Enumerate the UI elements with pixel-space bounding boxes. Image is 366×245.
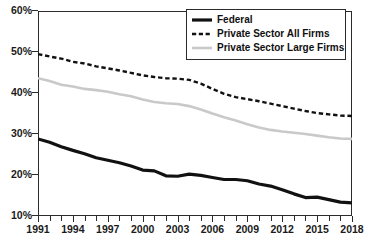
x-tick xyxy=(61,216,62,221)
x-tick xyxy=(317,216,318,222)
x-tick xyxy=(294,216,295,221)
x-tick xyxy=(50,216,51,221)
y-tick xyxy=(32,51,38,52)
legend-item-federal: Federal xyxy=(191,13,341,27)
x-tick xyxy=(178,216,179,222)
legend-label-federal: Federal xyxy=(217,15,253,25)
legend-item-private-all: Private Sector All Firms xyxy=(191,27,341,41)
legend-swatch-private-all xyxy=(191,28,213,40)
y-tick-label: 20% xyxy=(0,169,32,180)
x-tick xyxy=(201,216,202,221)
y-tick xyxy=(32,10,38,11)
legend-swatch-private-large xyxy=(191,42,213,54)
x-tick xyxy=(236,216,237,221)
x-tick xyxy=(305,216,306,221)
x-tick-label: 2018 xyxy=(332,224,366,235)
chart-legend: Federal Private Sector All Firms Private… xyxy=(186,9,346,60)
legend-label-private-all: Private Sector All Firms xyxy=(217,29,329,39)
x-tick xyxy=(247,216,248,222)
x-tick xyxy=(189,216,190,221)
x-tick xyxy=(119,216,120,221)
x-tick xyxy=(340,216,341,221)
y-tick-label: 60% xyxy=(0,5,32,16)
y-tick-label: 50% xyxy=(0,46,32,57)
x-tick xyxy=(166,216,167,221)
legend-label-private-large: Private Sector Large Firms xyxy=(217,43,344,53)
y-tick xyxy=(32,92,38,93)
x-tick xyxy=(259,216,260,221)
x-tick xyxy=(282,216,283,222)
x-tick xyxy=(96,216,97,221)
y-tick-label: 10% xyxy=(0,210,32,221)
x-tick xyxy=(352,216,353,222)
x-tick xyxy=(108,216,109,222)
x-tick xyxy=(73,216,74,222)
legend-item-private-large: Private Sector Large Firms xyxy=(191,41,341,55)
x-tick xyxy=(224,216,225,221)
y-tick-label: 30% xyxy=(0,128,32,139)
x-tick xyxy=(271,216,272,221)
legend-swatch-federal xyxy=(191,14,213,26)
y-tick-label: 40% xyxy=(0,87,32,98)
x-tick xyxy=(131,216,132,221)
union-membership-rate-chart: 10%20%30%40%50%60% 199119941997200020032… xyxy=(0,0,366,245)
y-tick xyxy=(32,133,38,134)
x-tick xyxy=(38,216,39,222)
x-tick xyxy=(154,216,155,221)
x-tick xyxy=(329,216,330,221)
x-tick xyxy=(212,216,213,222)
x-tick xyxy=(143,216,144,222)
y-tick xyxy=(32,174,38,175)
x-tick xyxy=(85,216,86,221)
